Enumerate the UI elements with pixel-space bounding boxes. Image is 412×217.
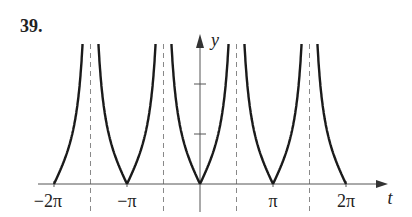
tan-abs-plot: −2π−ππ2πty (0, 0, 412, 217)
curve-branch (273, 44, 302, 184)
curve-branch (99, 44, 128, 184)
x-tick-label: 2π (337, 191, 355, 211)
x-tick-label: π (268, 191, 277, 211)
y-axis-arrow-icon (196, 34, 204, 48)
curve-branch (200, 44, 229, 184)
x-tick-label: −π (117, 191, 136, 211)
y-axis-label: y (209, 30, 219, 50)
x-tick-label: −2π (34, 191, 62, 211)
curve-branch (172, 44, 201, 184)
curve-branch (54, 44, 83, 184)
x-axis-arrow-icon (376, 180, 388, 188)
curve-branch (318, 44, 347, 184)
curve-branch (245, 44, 274, 184)
axes (38, 34, 388, 212)
x-axis-label: t (387, 188, 393, 208)
curve-branch (127, 44, 156, 184)
